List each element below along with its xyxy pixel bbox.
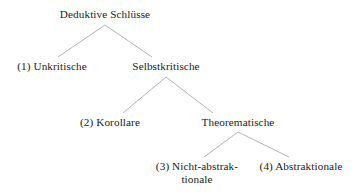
- node-label: Theorematische: [202, 116, 275, 128]
- node-korollare: (2) Korollare: [80, 116, 140, 129]
- tree-diagram: Deduktive Schlüsse (1) Unkritische Selbs…: [0, 0, 354, 194]
- node-unkritische: (1) Unkritische: [17, 60, 87, 73]
- node-label: Selbstkritische: [132, 60, 199, 72]
- node-label: (3) Nicht-abstrak-: [156, 160, 238, 172]
- node-label: (4) Abstraktionale: [260, 160, 343, 172]
- edge-theorematische-to-abstraktionale: [238, 132, 289, 157]
- edge-selbstkritische-to-theorematische: [166, 77, 213, 113]
- node-deduktive-schluesse: Deduktive Schlüsse: [60, 8, 150, 21]
- node-selbstkritische: Selbstkritische: [132, 60, 199, 73]
- node-label: (1) Unkritische: [17, 60, 87, 72]
- edge-root-to-selbstkritische: [105, 25, 152, 57]
- edge-theorematische-to-nicht-abstraktionale: [204, 132, 238, 157]
- node-nicht-abstraktionale: (3) Nicht-abstrak- tionale: [156, 160, 238, 186]
- node-theorematische: Theorematische: [202, 116, 275, 129]
- edge-selbstkritische-to-korollare: [123, 77, 166, 113]
- edge-root-to-unkritische: [58, 25, 105, 57]
- node-label: (2) Korollare: [80, 116, 140, 128]
- node-label-line2: tionale: [156, 173, 238, 186]
- node-label: Deduktive Schlüsse: [60, 8, 150, 20]
- node-abstraktionale: (4) Abstraktionale: [260, 160, 343, 173]
